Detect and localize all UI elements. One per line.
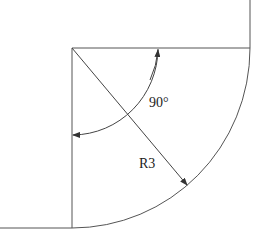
radius-dimension-line [72,48,187,185]
angle-dimension-arc [73,49,158,135]
corner-arc [72,48,250,228]
drawing-canvas: 90° R3 [0,0,253,233]
radius-label: R3 [139,156,155,171]
angle-label: 90° [149,95,169,110]
